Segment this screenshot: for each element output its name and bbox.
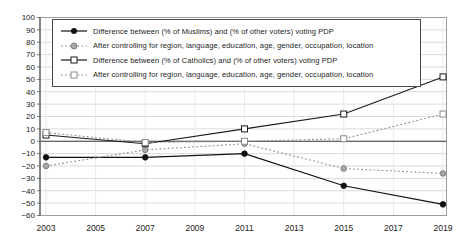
legend-label-muslims-after-controls: After controlling for region, language, … — [93, 41, 373, 50]
chart-legend: Difference between (% of Muslims) and (%… — [52, 19, 421, 87]
religion-pdp-voting-chart: 1009080706050403020100−10−20−30−40−50−60… — [0, 0, 469, 249]
svg-text:50: 50 — [26, 75, 35, 84]
marker-muslims-after-controls — [43, 163, 49, 169]
marker-catholics-after-controls — [43, 130, 49, 136]
svg-text:2005: 2005 — [86, 223, 105, 233]
svg-text:100: 100 — [22, 13, 36, 22]
svg-text:2009: 2009 — [185, 223, 204, 233]
svg-text:0: 0 — [31, 137, 36, 146]
svg-text:90: 90 — [26, 26, 35, 35]
svg-text:80: 80 — [26, 38, 35, 47]
svg-text:2007: 2007 — [136, 223, 155, 233]
svg-text:2013: 2013 — [285, 223, 304, 233]
filled-circle-solid-line-icon — [61, 26, 87, 36]
svg-text:−20: −20 — [21, 162, 35, 171]
svg-text:−50: −50 — [21, 199, 35, 208]
x-axis-labels: 200320052007200920112013201520172019 — [37, 223, 453, 233]
marker-catholics-difference — [440, 74, 446, 80]
svg-text:2015: 2015 — [334, 223, 353, 233]
marker-catholics-after-controls — [440, 111, 446, 117]
marker-catholics-difference — [242, 126, 248, 132]
svg-text:−40: −40 — [21, 187, 35, 196]
svg-text:−10: −10 — [21, 149, 35, 158]
svg-text:2003: 2003 — [37, 223, 56, 233]
marker-muslims-after-controls — [341, 166, 347, 172]
marker-muslims-after-controls — [440, 171, 446, 177]
y-axis-labels: 1009080706050403020100−10−20−30−40−50−60 — [21, 13, 40, 220]
legend-label-catholics-after-controls: After controlling for region, language, … — [93, 70, 373, 79]
marker-catholics-after-controls — [242, 138, 248, 144]
legend-label-catholics-difference: Difference between (% of Catholics) and … — [93, 56, 337, 65]
marker-muslims-difference — [142, 155, 148, 161]
gray-circle-dotted-line-icon — [61, 41, 87, 51]
marker-catholics-difference — [341, 111, 347, 117]
legend-item-catholics-after-controls: After controlling for region, language, … — [61, 70, 412, 80]
marker-catholics-after-controls — [341, 136, 347, 142]
svg-text:−60: −60 — [21, 211, 35, 220]
legend-item-muslims-after-controls: After controlling for region, language, … — [61, 41, 412, 51]
marker-muslims-difference — [440, 202, 446, 208]
svg-text:−30: −30 — [21, 174, 35, 183]
marker-muslims-difference — [242, 151, 248, 157]
svg-text:2019: 2019 — [434, 223, 453, 233]
svg-text:20: 20 — [26, 112, 35, 121]
svg-text:10: 10 — [26, 125, 35, 134]
marker-muslims-difference — [341, 183, 347, 189]
svg-text:60: 60 — [26, 63, 35, 72]
marker-catholics-after-controls — [142, 139, 148, 145]
legend-item-catholics-difference: Difference between (% of Catholics) and … — [61, 55, 412, 65]
open-square-dotted-line-icon — [61, 70, 87, 80]
svg-text:30: 30 — [26, 100, 35, 109]
svg-text:2017: 2017 — [384, 223, 403, 233]
svg-text:40: 40 — [26, 88, 35, 97]
legend-item-muslims-difference: Difference between (% of Muslims) and (%… — [61, 26, 412, 36]
svg-text:2011: 2011 — [235, 223, 254, 233]
legend-label-muslims-difference: Difference between (% of Muslims) and (%… — [93, 27, 334, 36]
marker-muslims-after-controls — [142, 147, 148, 153]
marker-muslims-difference — [43, 155, 49, 161]
open-square-solid-line-icon — [61, 55, 87, 65]
svg-text:70: 70 — [26, 50, 35, 59]
